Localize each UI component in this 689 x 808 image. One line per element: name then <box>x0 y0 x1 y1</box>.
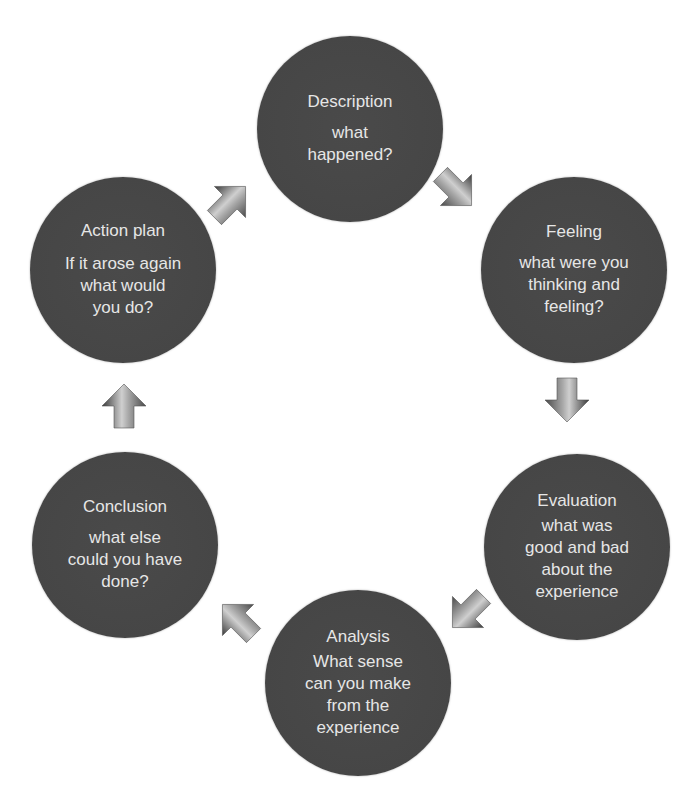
node-title: Description <box>307 92 392 112</box>
node-conclusion: Conclusion what else could you have done… <box>32 452 218 638</box>
node-subtitle: what else could you have done? <box>68 527 182 593</box>
arrow-down-left-icon <box>434 578 502 646</box>
node-action-plan: Action plan If it arose again what would… <box>30 177 216 363</box>
arrow-up-right-icon <box>196 168 264 236</box>
arrow-down-icon <box>543 376 591 424</box>
node-subtitle: What sense can you make from the experie… <box>305 651 411 739</box>
node-analysis: Analysis What sense can you make from th… <box>265 590 451 776</box>
node-feeling: Feeling what were you thinking and feeli… <box>481 177 667 363</box>
node-subtitle: what was good and bad about the experien… <box>525 515 629 603</box>
node-title: Conclusion <box>83 497 167 517</box>
node-subtitle: If it arose again what would you do? <box>65 253 181 319</box>
node-title: Action plan <box>81 221 165 241</box>
arrow-up-icon <box>100 382 148 430</box>
node-subtitle: what happened? <box>307 122 392 166</box>
arrow-up-left-icon <box>204 586 272 654</box>
node-subtitle: what were you thinking and feeling? <box>519 252 629 318</box>
node-title: Analysis <box>326 627 389 647</box>
node-title: Feeling <box>546 222 602 242</box>
node-evaluation: Evaluation what was good and bad about t… <box>484 454 670 640</box>
node-description: Description what happened? <box>257 36 443 222</box>
reflective-cycle-diagram: Description what happened? Feeling what … <box>0 0 689 808</box>
node-title: Evaluation <box>537 491 616 511</box>
